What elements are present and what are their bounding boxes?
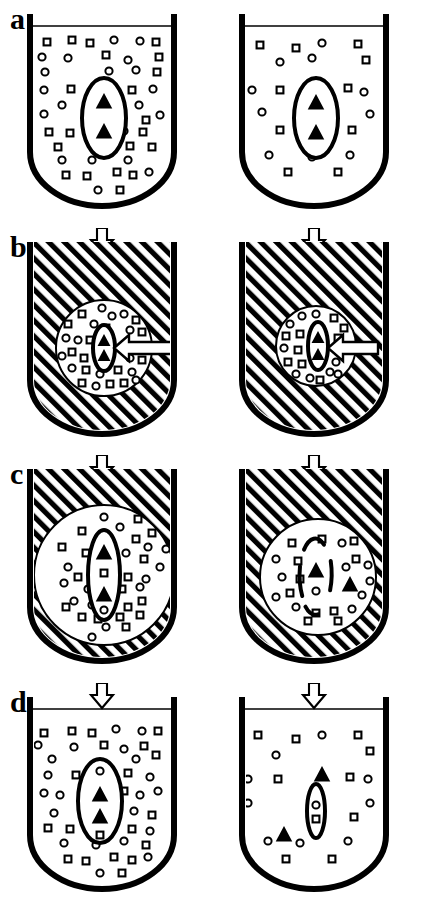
vessel-panel-d-right — [212, 683, 424, 911]
figure-row-b: b — [0, 228, 424, 456]
cell-intact — [294, 78, 338, 158]
vessel-panel-a-left — [0, 0, 212, 228]
cell-intact — [78, 759, 122, 843]
cell-compressed — [308, 322, 328, 370]
step-down-arrow — [303, 683, 325, 708]
vessel-panel-b-left — [0, 228, 212, 456]
figure-row-a: a — [0, 0, 424, 228]
cell-collapsed — [307, 784, 325, 838]
vessel-panel-c-left — [0, 455, 212, 683]
escaped-intracellular-marker — [314, 766, 331, 781]
figure-row-c: c — [0, 455, 424, 683]
cryopreservation-figure: abcd — [0, 0, 424, 911]
cell-intact — [88, 530, 120, 620]
vessel-panel-d-left — [0, 683, 212, 911]
vessel-panel-a-right — [212, 0, 424, 228]
figure-row-d: d — [0, 683, 424, 911]
vessel-panel-c-right — [212, 455, 424, 683]
cell-intact — [82, 78, 126, 158]
cell-compressed — [93, 325, 115, 371]
vessel-panel-b-right — [212, 228, 424, 456]
escaped-intracellular-marker — [276, 826, 293, 841]
step-down-arrow — [91, 683, 113, 708]
